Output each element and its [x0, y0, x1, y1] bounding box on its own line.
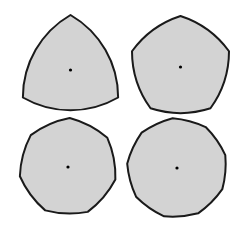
reuleaux-triangle-outline — [23, 15, 118, 110]
reuleaux-nonagon-center-dot — [175, 166, 178, 169]
shape-reuleaux-nonagon — [127, 118, 225, 216]
shape-reuleaux-pentagon — [132, 16, 229, 113]
reuleaux-pentagon-outline — [132, 16, 229, 113]
reuleaux-polygons-figure — [0, 0, 244, 229]
shape-reuleaux-triangle — [23, 15, 118, 110]
shape-reuleaux-heptagon — [20, 118, 116, 214]
reuleaux-pentagon-center-dot — [179, 65, 182, 68]
reuleaux-triangle-center-dot — [69, 68, 72, 71]
reuleaux-heptagon-center-dot — [66, 165, 69, 168]
